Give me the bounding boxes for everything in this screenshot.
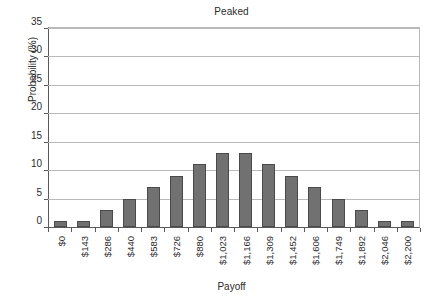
bar[interactable] [262,164,275,227]
bar[interactable] [123,199,136,227]
x-tick-mark [71,228,72,232]
bar-slot [49,28,72,227]
bar[interactable] [77,221,90,227]
bar[interactable] [332,199,345,227]
y-tick-label: 25 [10,73,42,84]
x-tick-label: $880 [194,236,205,257]
x-tick-label: $1,166 [240,236,251,265]
x-label-slot: $583 [142,234,165,280]
bar-slot [211,28,234,227]
x-tick-label: $1,892 [356,236,367,265]
y-tick-label: 10 [10,158,42,169]
bar[interactable] [147,187,160,227]
x-label-slot: $880 [188,234,211,280]
bar-slot [118,28,141,227]
x-tick-label: $583 [148,236,159,257]
x-label-slot: $726 [165,234,188,280]
x-tick-mark [281,228,282,232]
chart-title-text: Peaked [214,6,249,17]
bar[interactable] [308,187,321,227]
bar[interactable] [216,153,229,227]
x-tick-mark [327,228,328,232]
x-tick-label: $0 [55,236,66,247]
y-tick-label: 30 [10,44,42,55]
x-label-slot: $1,309 [257,234,280,280]
bar-slot [396,28,419,227]
y-tick-mark [44,199,48,200]
y-tick-mark [44,142,48,143]
x-tick-mark [234,228,235,232]
y-tick-mark [44,56,48,57]
y-tick-mark [44,113,48,114]
bar[interactable] [285,176,298,227]
bar-slot [142,28,165,227]
x-tick-mark [257,228,258,232]
x-label-slot: $0 [49,234,72,280]
x-axis-ticks [48,228,420,233]
x-axis-tick-labels: $0$143$286$440$583$726$880$1,023$1,166$1… [49,234,419,280]
x-tick-mark [374,228,375,232]
y-tick-label: 5 [10,187,42,198]
x-tick-label: $726 [171,236,182,257]
x-label-slot: $440 [118,234,141,280]
bar[interactable] [100,210,113,227]
y-tick-label: 0 [10,215,42,226]
bar-slot [327,28,350,227]
x-tick-label: $440 [124,236,135,257]
x-tick-mark [118,228,119,232]
x-tick-mark [164,228,165,232]
x-tick-label: $286 [101,236,112,257]
bar-series [49,28,419,227]
x-tick-label: $143 [78,236,89,257]
x-tick-mark [188,228,189,232]
x-tick-mark [304,228,305,232]
y-tick-mark [44,170,48,171]
x-label-slot: $1,892 [350,234,373,280]
bar[interactable] [239,153,252,227]
x-label-slot: $1,023 [211,234,234,280]
x-label-slot: $1,452 [280,234,303,280]
bar-slot [95,28,118,227]
x-tick-mark [397,228,398,232]
x-tick-mark [350,228,351,232]
x-tick-mark [48,228,49,232]
bar-slot [373,28,396,227]
bar-slot [280,28,303,227]
y-tick-label: 35 [10,16,42,27]
bar-slot [350,28,373,227]
x-tick-label: $1,023 [217,236,228,265]
y-tick-mark [44,85,48,86]
x-tick-label: $1,452 [286,236,297,265]
x-label-slot: $143 [72,234,95,280]
y-tick-label: 20 [10,101,42,112]
x-label-slot: $2,046 [373,234,396,280]
bar-slot [165,28,188,227]
y-tick-mark [44,28,48,29]
bar-chart: Peaked Probability (%) 05101520253035 $0… [0,0,435,300]
bar[interactable] [401,221,414,227]
x-axis-title-text: Payoff [217,281,245,292]
x-tick-label: $1,309 [263,236,274,265]
bar[interactable] [193,164,206,227]
x-tick-mark [420,228,421,232]
bar[interactable] [170,176,183,227]
y-tick-label: 15 [10,130,42,141]
x-tick-label: $1,749 [333,236,344,265]
x-axis-title: Payoff [0,281,435,292]
bar[interactable] [378,221,391,227]
bar[interactable] [355,210,368,227]
x-tick-label: $2,200 [402,236,413,265]
bar[interactable] [54,221,67,227]
x-label-slot: $1,606 [303,234,326,280]
x-tick-mark [95,228,96,232]
bar-slot [303,28,326,227]
bar-slot [72,28,95,227]
x-tick-mark [211,228,212,232]
x-label-slot: $1,749 [327,234,350,280]
bar-slot [257,28,280,227]
x-tick-mark [141,228,142,232]
x-label-slot: $2,200 [396,234,419,280]
x-tick-label: $2,046 [379,236,390,265]
bar-slot [234,28,257,227]
x-label-slot: $1,166 [234,234,257,280]
